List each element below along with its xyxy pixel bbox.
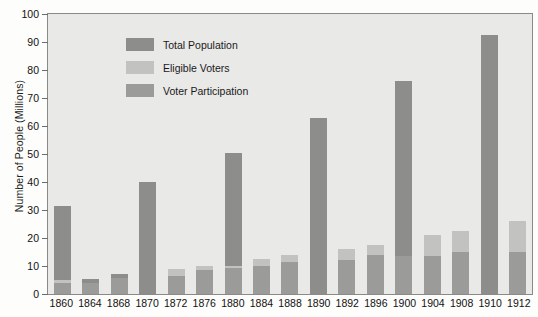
bar-1896 [367, 14, 384, 294]
x-label-1864: 1864 [76, 297, 105, 309]
x-label-1904: 1904 [419, 297, 448, 309]
legend-item-total-population: Total Population [126, 38, 248, 51]
legend-item-voter-participation: Voter Participation [126, 84, 248, 97]
plot-inner: 0102030405060708090100 Total Population … [48, 14, 532, 294]
voter-participation-bar-chart: Number of People (Millions) 010203040506… [0, 0, 538, 317]
legend-swatch-total-population [126, 38, 154, 51]
bar-segment-voter-participation [253, 266, 270, 294]
bar-segment-eligible-voters [452, 231, 469, 252]
x-label-1870: 1870 [133, 297, 162, 309]
bar-segment-voter-participation [424, 256, 441, 294]
x-axis-labels: 1860186418681870187218761880188418881890… [47, 297, 533, 309]
y-axis-title: Number of People (Millions) [13, 41, 25, 251]
bar-segment-eligible-voters [281, 255, 298, 262]
bar-segment-voter-participation [281, 262, 298, 294]
legend-label-eligible-voters: Eligible Voters [163, 62, 230, 74]
legend-label-voter-participation: Voter Participation [163, 85, 248, 97]
bar-segment-voter-participation [54, 283, 71, 294]
x-label-1892: 1892 [333, 297, 362, 309]
bar-1860 [54, 14, 71, 294]
bar-1890 [310, 14, 327, 294]
x-label-1876: 1876 [190, 297, 219, 309]
x-label-1888: 1888 [276, 297, 305, 309]
x-label-1896: 1896 [362, 297, 391, 309]
bar-segment-voter-participation [509, 252, 526, 294]
bar-1912 [509, 14, 526, 294]
bar-1884 [253, 14, 270, 294]
bar-segment-voter-participation [338, 260, 355, 294]
x-label-1880: 1880 [219, 297, 248, 309]
x-label-1890: 1890 [304, 297, 333, 309]
legend-label-total-population: Total Population [163, 39, 238, 51]
bar-segment-eligible-voters [509, 221, 526, 252]
x-label-1910: 1910 [476, 297, 505, 309]
bar-segment-voter-participation [395, 256, 412, 294]
bar-segment-eligible-voters [253, 259, 270, 266]
x-label-1884: 1884 [247, 297, 276, 309]
bar-segment-eligible-voters [424, 235, 441, 256]
bar-segment-total-population [481, 35, 498, 294]
bar-segment-total-population [395, 81, 412, 256]
plot-area: 0102030405060708090100 Total Population … [47, 13, 533, 295]
bar-1892 [338, 14, 355, 294]
bar-1908 [452, 14, 469, 294]
bar-segment-voter-participation [452, 252, 469, 294]
x-label-1860: 1860 [47, 297, 76, 309]
legend-swatch-eligible-voters [126, 61, 154, 74]
chart-legend: Total Population Eligible Voters Voter P… [126, 38, 248, 97]
bar-segment-voter-participation [168, 276, 185, 294]
bar-segment-voter-participation [367, 255, 384, 294]
bar-1888 [281, 14, 298, 294]
legend-item-eligible-voters: Eligible Voters [126, 61, 248, 74]
bar-1900 [395, 14, 412, 294]
x-label-1872: 1872 [161, 297, 190, 309]
bar-group [48, 14, 532, 294]
bar-segment-total-population [54, 206, 71, 280]
bar-segment-total-population [310, 118, 327, 294]
bar-segment-voter-participation [111, 278, 128, 294]
x-label-1900: 1900 [390, 297, 419, 309]
bar-1904 [424, 14, 441, 294]
bar-segment-eligible-voters [168, 269, 185, 276]
bar-segment-eligible-voters [367, 245, 384, 255]
x-label-1868: 1868 [104, 297, 133, 309]
bar-1910 [481, 14, 498, 294]
bar-segment-total-population [139, 182, 156, 294]
bar-segment-eligible-voters [338, 249, 355, 260]
x-label-1908: 1908 [447, 297, 476, 309]
bar-segment-total-population [225, 153, 242, 266]
bar-segment-voter-participation [225, 268, 242, 294]
bar-segment-voter-participation [196, 270, 213, 294]
bar-segment-voter-participation [82, 283, 99, 294]
x-label-1912: 1912 [505, 297, 534, 309]
legend-swatch-voter-participation [126, 84, 154, 97]
bar-1864 [82, 14, 99, 294]
